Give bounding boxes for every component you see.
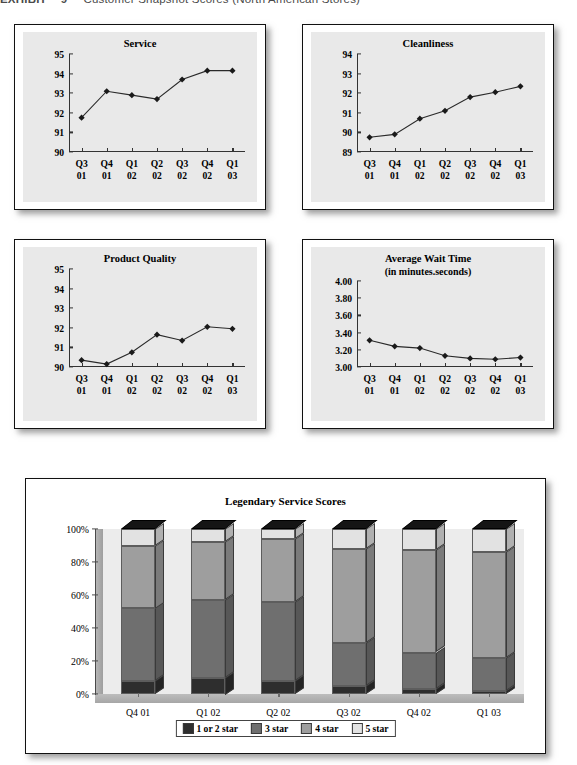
data-series-line [357, 281, 533, 367]
x-axis-tick-label: Q202 [151, 158, 163, 181]
bar-segment-side [155, 602, 164, 681]
bar-stack [472, 529, 506, 694]
x-axis-tick-mark [138, 693, 139, 697]
y-axis-tick-label: 4.00 [335, 276, 357, 287]
exhibit-title: Customer Snapshot Scores (North American… [83, 0, 360, 5]
bar-segment-side [506, 546, 515, 658]
x-axis-tick-label: Q103 [514, 373, 526, 396]
x-axis-tick-label: Q402 [201, 373, 213, 396]
bar-segment-side [225, 594, 234, 678]
chart-panel-inner: Product Quality 909192939495 Q301Q401Q10… [23, 247, 257, 421]
x-axis-tick-label: Q402 [201, 158, 213, 181]
y-axis-tick-label: 91 [342, 107, 357, 118]
bar-segment-side [506, 652, 515, 691]
y-axis-tick-mark [92, 594, 98, 595]
x-axis-tick-label: Q401 [389, 373, 401, 396]
bar-segment [121, 608, 155, 681]
x-axis-tick-label: Q401 [101, 158, 113, 181]
chart-title: Product Quality [23, 253, 257, 264]
x-axis-tick-label: Q302 [176, 373, 188, 396]
legend-item: 3 star [251, 723, 288, 734]
x-axis-tick-mark [489, 693, 490, 697]
x-axis-labels: Q301Q401Q102Q202Q302Q402Q103 [357, 156, 533, 182]
x-axis-tick-label: Q102 [414, 158, 426, 181]
chart-panel-inner: Cleanliness 899091929394 Q301Q401Q102Q20… [311, 32, 545, 202]
bar-segment [332, 643, 366, 686]
bar-segment [472, 552, 506, 658]
plot-area: 909192939495 [69, 269, 245, 367]
bar-segment-side [295, 596, 304, 681]
x-axis-tick-label: Q202 [151, 373, 163, 396]
chart-panel-legendary-service-scores: Legendary Service Scores 0%20%40%60%80%1… [25, 478, 546, 754]
bar-stack [191, 529, 225, 694]
bar-segment [402, 550, 436, 652]
x-axis-labels: Q301Q401Q102Q202Q302Q402Q103 [69, 156, 245, 182]
chart-panel-cleanliness: Cleanliness 899091929394 Q301Q401Q102Q20… [302, 24, 554, 210]
x-axis-tick-label: Q102 [126, 373, 138, 396]
bar-stack [332, 529, 366, 694]
y-axis-tick-label: 91 [54, 342, 69, 353]
bar-segment [472, 529, 506, 552]
y-axis-line [95, 529, 96, 695]
x-axis-tick-mark [208, 693, 209, 697]
chart-legend: 1 or 2 star3 star4 star5 star [175, 720, 395, 737]
y-axis-tick-label: 90 [342, 127, 357, 138]
x-axis-tick-label: Q4 02 [407, 707, 431, 718]
bar-segment [191, 678, 225, 695]
bar-segment [472, 658, 506, 691]
x-axis-tick-label: Q103 [226, 158, 238, 181]
data-series-line [357, 54, 533, 152]
x-axis-tick-mark [419, 693, 420, 697]
x-axis-labels: Q301Q401Q102Q202Q302Q402Q103 [357, 371, 533, 397]
chart-title: Cleanliness [311, 38, 545, 49]
y-axis-tick-label: 94 [342, 49, 357, 60]
y-axis-tick-label: 3.60 [335, 310, 357, 321]
chart-panel-product-quality: Product Quality 909192939495 Q301Q401Q10… [14, 239, 266, 429]
exhibit-header: EXHIBIT9Customer Snapshot Scores (North … [0, 0, 577, 9]
y-axis-tick-label: 90 [54, 147, 69, 158]
x-axis-tick-label: Q103 [226, 373, 238, 396]
x-axis-tick-label: Q4 01 [126, 707, 150, 718]
y-axis-tick-label: 93 [54, 303, 69, 314]
legend-item: 1 or 2 star [182, 723, 238, 734]
x-axis-tick-label: Q2 02 [266, 707, 290, 718]
plot-backdrop [102, 529, 524, 695]
bar-segment-side [366, 543, 375, 643]
bar-segment [402, 529, 436, 550]
bar-segment [261, 529, 295, 539]
data-series-line [69, 54, 245, 152]
x-axis-tick-label: Q302 [464, 158, 476, 181]
y-axis-tick-label: 3.00 [335, 362, 357, 373]
y-axis-tick-mark [92, 693, 98, 694]
y-axis-tick-mark [92, 561, 98, 562]
chart-panel-inner: Service 909192939495 Q301Q401Q102Q202Q30… [23, 32, 257, 202]
y-axis-tick-label: 92 [342, 88, 357, 99]
y-axis-tick-mark [92, 660, 98, 661]
y-axis-tick-label: 94 [54, 68, 69, 79]
y-axis-tick-label: 93 [54, 88, 69, 99]
plot-area: 3.003.203.403.603.804.00 [357, 281, 533, 367]
legend-swatch-icon [351, 723, 362, 734]
bar-segment [121, 546, 155, 609]
y-axis-tick-mark [92, 627, 98, 628]
y-axis-tick-label: 3.20 [335, 344, 357, 355]
x-axis-tick-label: Q202 [439, 158, 451, 181]
bar-plot-area: 0%20%40%60%80%100% Q4 01Q1 02Q2 02Q3 02Q… [92, 523, 524, 703]
y-axis-tick-label: 94 [54, 283, 69, 294]
legend-item: 5 star [351, 723, 388, 734]
x-axis-tick-mark [278, 693, 279, 697]
chart-title: Legendary Service Scores [30, 495, 541, 507]
x-axis-tick-label: Q401 [389, 158, 401, 181]
bar-segment [402, 653, 436, 689]
bar-segment-side [366, 637, 375, 686]
chart-panel-average-wait-time: Average Wait Time (in minutes.seconds) 3… [302, 239, 554, 429]
x-axis-tick-label: Q402 [489, 158, 501, 181]
chart-panel-service: Service 909192939495 Q301Q401Q102Q202Q30… [14, 24, 266, 210]
y-axis-tick-label: 100% [66, 524, 95, 535]
y-axis-tick-label: 91 [54, 127, 69, 138]
plot-area: 899091929394 [357, 54, 533, 152]
legend-item: 4 star [301, 723, 338, 734]
y-axis-tick-label: 93 [342, 68, 357, 79]
x-axis-tick-label: Q301 [363, 373, 375, 396]
bar-segment-side [436, 647, 445, 689]
